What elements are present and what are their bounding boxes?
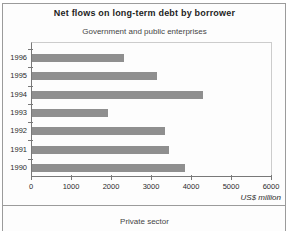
chart-title: Net flows on long-term debt by borrower	[3, 8, 286, 18]
bar-1990	[32, 164, 185, 172]
y-axis-label-1994: 1994	[5, 90, 27, 100]
y-axis-tick	[28, 49, 33, 50]
x-axis-tick	[71, 175, 72, 180]
x-axis-unit-label: US$ million	[31, 193, 281, 202]
y-axis-tick	[28, 104, 33, 105]
y-axis-tick	[28, 140, 33, 141]
bar-1996	[32, 54, 124, 62]
x-axis-label-2000: 2000	[96, 182, 126, 191]
section-divider	[2, 205, 286, 206]
y-axis-tick	[28, 159, 33, 160]
bar-1994	[32, 91, 203, 99]
x-axis-label-0: 0	[16, 182, 46, 191]
y-axis-label-1995: 1995	[5, 71, 27, 81]
y-axis-tick	[28, 67, 33, 68]
bar-1993	[32, 109, 108, 117]
x-axis-label-6000: 6000	[256, 182, 286, 191]
figure: Net flows on long-term debt by borrower …	[0, 0, 289, 231]
y-axis-label-1992: 1992	[5, 126, 27, 136]
bar-1992	[32, 127, 165, 135]
chart-subtitle: Government and public enterprises	[3, 27, 286, 36]
y-axis-label-1991: 1991	[5, 145, 27, 155]
x-axis-tick	[151, 175, 152, 180]
x-axis-label-4000: 4000	[176, 182, 206, 191]
y-axis-label-1993: 1993	[5, 108, 27, 118]
x-axis-tick	[231, 175, 232, 180]
next-section-subtitle: Private sector	[3, 217, 286, 226]
x-axis-tick	[31, 175, 32, 180]
y-axis-tick	[28, 86, 33, 87]
x-axis-tick	[191, 175, 192, 180]
x-axis-tick	[111, 175, 112, 180]
x-axis-label-3000: 3000	[136, 182, 166, 191]
x-axis-label-5000: 5000	[216, 182, 246, 191]
y-axis-tick	[28, 122, 33, 123]
y-axis-label-1996: 1996	[5, 53, 27, 63]
x-axis-tick	[271, 175, 272, 180]
x-axis-label-1000: 1000	[56, 182, 86, 191]
y-axis-label-1990: 1990	[5, 163, 27, 173]
bar-1991	[32, 146, 169, 154]
bar-1995	[32, 72, 157, 80]
